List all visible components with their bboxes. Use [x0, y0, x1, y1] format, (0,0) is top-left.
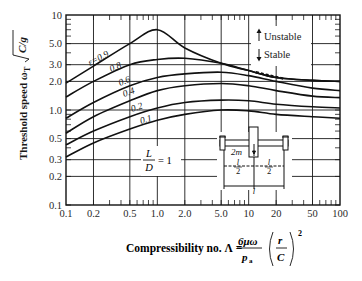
svg-text:3.0: 3.0: [49, 59, 62, 70]
svg-text:2: 2: [298, 229, 302, 238]
svg-text:2.0: 2.0: [49, 76, 62, 87]
svg-text:a: a: [249, 257, 253, 265]
svg-text:p: p: [241, 251, 248, 263]
svg-text:2: 2: [267, 166, 271, 176]
svg-text:5.0: 5.0: [49, 38, 62, 49]
x-axis-label: Compressibility no. Λ = 6μω p a r C 2: [0, 228, 362, 280]
svg-text:100: 100: [332, 208, 348, 219]
svg-text:L: L: [145, 148, 152, 159]
svg-text:2.0: 2.0: [178, 208, 191, 219]
stable-label: Stable: [264, 49, 291, 60]
label-eps-0.8: 0.8: [108, 60, 123, 74]
svg-text:= 1: = 1: [158, 155, 172, 166]
unstable-label: Unstable: [264, 31, 302, 42]
svg-text:C/g: C/g: [16, 37, 28, 53]
svg-text:50: 50: [307, 208, 318, 219]
svg-text:0.1: 0.1: [49, 200, 62, 211]
svg-text:C: C: [277, 251, 285, 263]
svg-text:10: 10: [52, 10, 63, 21]
x-tick-labels: 0.10.20.51.02.05.0102050100: [59, 208, 347, 219]
curve-0.1: [66, 110, 340, 157]
svg-text:6μω: 6μω: [238, 235, 258, 247]
curve-labels: ε=0.9 0.8 0.6 0.4 0.2 0.1: [86, 48, 153, 125]
svg-text:0.3: 0.3: [49, 154, 62, 165]
label-eps-0.4: 0.4: [121, 85, 136, 99]
svg-text:0.5: 0.5: [49, 133, 62, 144]
svg-text:1.0: 1.0: [151, 208, 164, 219]
svg-text:20: 20: [271, 208, 282, 219]
label-eps-0.1: 0.1: [139, 113, 153, 126]
stability-legend: Unstable Stable: [251, 26, 311, 66]
svg-text:10: 10: [243, 208, 254, 219]
svg-text:Threshold speed ωT: Threshold speed ωT: [17, 66, 32, 160]
y-axis-label: Threshold speed ωT C/g: [13, 30, 32, 160]
ld-ratio-label: L D = 1: [141, 146, 181, 176]
rotor-diagram: 2m l 2 l 2 l: [217, 127, 292, 196]
svg-text:0.2: 0.2: [87, 208, 100, 219]
svg-text:5.0: 5.0: [215, 208, 228, 219]
svg-text:1.0: 1.0: [49, 105, 62, 116]
mass-label: 2m: [231, 147, 243, 157]
svg-text:D: D: [144, 162, 153, 173]
svg-text:2: 2: [236, 166, 240, 176]
svg-text:Compressibility no. Λ =: Compressibility no. Λ =: [126, 242, 242, 255]
svg-text:r: r: [278, 234, 283, 246]
svg-text:0.2: 0.2: [49, 171, 62, 182]
svg-text:0.5: 0.5: [123, 208, 136, 219]
y-tick-labels: 105.03.02.01.00.50.30.20.1: [49, 10, 62, 211]
